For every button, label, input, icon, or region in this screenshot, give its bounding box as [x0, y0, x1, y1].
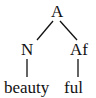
node-af: Af — [70, 41, 88, 58]
edge-a-n — [37, 21, 53, 40]
leaf-ful: ful — [64, 79, 83, 96]
node-root-a: A — [51, 3, 63, 20]
leaf-beauty: beauty — [4, 79, 49, 96]
node-n: N — [21, 41, 33, 58]
edge-a-af — [60, 21, 77, 40]
